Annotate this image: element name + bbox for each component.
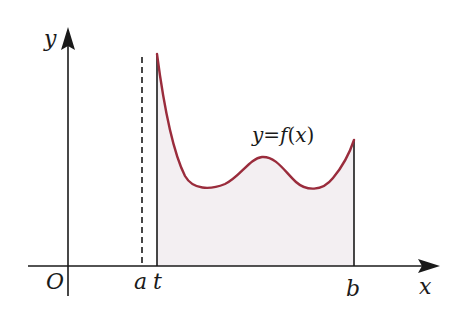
curve-label: y=f(x)	[251, 123, 314, 147]
curve-label-y: y	[251, 123, 264, 147]
marker-label-b: b	[346, 276, 360, 301]
function-graph-diagram: y x O a t b y=f(x)	[0, 0, 474, 320]
x-axis-label: x	[419, 274, 432, 299]
y-axis-label: y	[43, 26, 57, 51]
curve-label-x: x	[295, 123, 306, 147]
curve-label-close-paren: )	[307, 123, 315, 147]
marker-label-a: a	[134, 269, 147, 294]
curve-label-equals: =	[263, 123, 280, 147]
origin-label: O	[46, 269, 64, 294]
svg-text:y=f(x): y=f(x)	[251, 123, 314, 147]
curve-label-open-paren: (	[287, 123, 295, 147]
marker-label-t: t	[153, 269, 162, 294]
